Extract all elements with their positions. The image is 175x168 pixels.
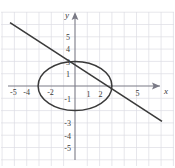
y-tick-label: 5 — [66, 33, 70, 42]
coordinate-plane: -5 -4 -2 1 2 5 5 4 3 1 -1 -3 -4 -5 x y — [0, 0, 175, 168]
y-tick-label: 4 — [66, 45, 70, 54]
x-tick-label: 5 — [136, 89, 140, 98]
y-axis-label: y — [64, 10, 69, 20]
y-tick-label: -1 — [64, 95, 71, 104]
x-tick-label: -5 — [10, 88, 17, 97]
y-tick-label: -4 — [64, 132, 71, 141]
x-tick-label: 1 — [87, 90, 91, 99]
x-tick-label: -2 — [47, 88, 54, 97]
y-tick-label: 1 — [66, 70, 70, 79]
x-tick-label: 2 — [99, 90, 103, 99]
y-tick-label: 3 — [66, 58, 70, 67]
graph-figure: -5 -4 -2 1 2 5 5 4 3 1 -1 -3 -4 -5 x y — [0, 0, 175, 168]
x-axis-label: x — [163, 86, 168, 96]
x-tick-label: -4 — [23, 88, 30, 97]
y-tick-label: -3 — [64, 119, 71, 128]
y-tick-label: -5 — [64, 144, 71, 153]
